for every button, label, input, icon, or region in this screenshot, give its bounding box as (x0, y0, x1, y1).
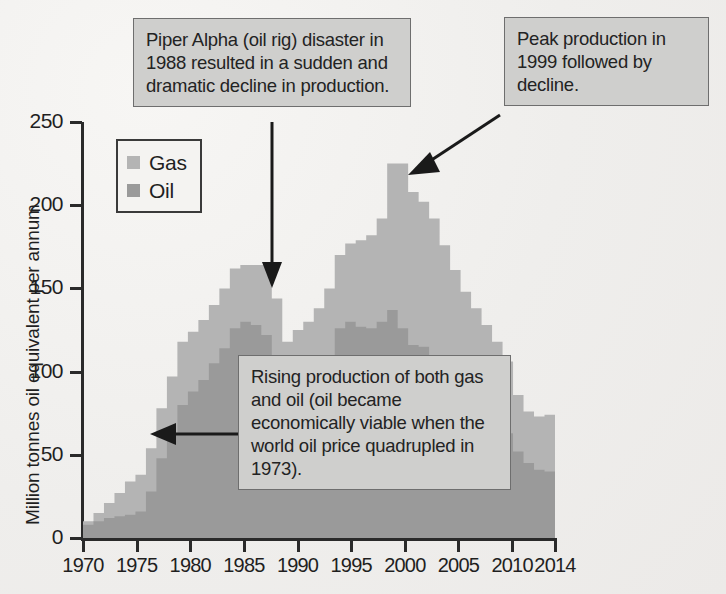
callout-rising-production: Rising production of both gas and oil (o… (238, 355, 511, 490)
callout-peak-production: Peak production in 1999 followed by decl… (504, 17, 709, 106)
chart-figure: Million tonnes oil equivalent per annum … (0, 0, 726, 594)
callout-piper-alpha: Piper Alpha (oil rig) disaster in 1988 r… (133, 18, 411, 107)
